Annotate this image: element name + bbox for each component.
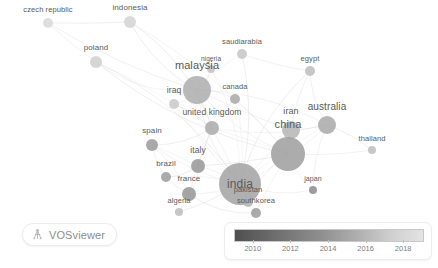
network-node[interactable] bbox=[237, 49, 247, 59]
vosviewer-logo-badge[interactable]: VOSviewer bbox=[22, 223, 117, 246]
legend-tick-label: 2018 bbox=[395, 244, 412, 253]
network-node[interactable] bbox=[43, 18, 53, 28]
vosviewer-logo-icon bbox=[31, 228, 44, 241]
score-legend: 20102012201420162018 bbox=[224, 222, 432, 260]
network-edge bbox=[48, 23, 197, 90]
legend-ticks: 20102012201420162018 bbox=[234, 240, 422, 256]
network-edge bbox=[152, 145, 189, 194]
legend-tickmark bbox=[403, 240, 404, 243]
network-edge bbox=[152, 145, 198, 166]
network-edge bbox=[130, 22, 212, 128]
vosviewer-visualization[interactable]: czech republicindonesiapolandsaudiarabia… bbox=[0, 0, 438, 268]
network-edge bbox=[313, 125, 327, 190]
legend-tick-label: 2014 bbox=[320, 244, 337, 253]
network-node[interactable] bbox=[318, 116, 336, 134]
network-edge bbox=[212, 125, 327, 133]
network-node[interactable] bbox=[191, 159, 205, 173]
legend-tick-label: 2010 bbox=[244, 244, 261, 253]
vosviewer-logo-text: VOSviewer bbox=[49, 229, 105, 241]
legend-tickmark bbox=[366, 240, 367, 243]
network-node[interactable] bbox=[205, 121, 219, 135]
network-node[interactable] bbox=[182, 187, 196, 201]
network-node[interactable] bbox=[243, 197, 253, 207]
network-node[interactable] bbox=[230, 94, 240, 104]
network-node[interactable] bbox=[146, 139, 158, 151]
legend-tickmark bbox=[290, 240, 291, 243]
network-node[interactable] bbox=[282, 121, 300, 139]
network-edge bbox=[197, 90, 327, 125]
legend-tick-label: 2012 bbox=[282, 244, 299, 253]
network-node[interactable] bbox=[219, 163, 261, 205]
nodes-layer[interactable] bbox=[43, 16, 376, 218]
network-edge bbox=[96, 62, 197, 91]
network-node[interactable] bbox=[251, 208, 261, 218]
network-edge bbox=[48, 22, 130, 23]
network-edge bbox=[242, 54, 310, 71]
network-node[interactable] bbox=[271, 137, 305, 171]
network-node[interactable] bbox=[309, 186, 317, 194]
network-node[interactable] bbox=[90, 56, 102, 68]
network-node[interactable] bbox=[124, 16, 136, 28]
legend-tick-label: 2016 bbox=[357, 244, 374, 253]
network-node[interactable] bbox=[161, 172, 171, 182]
network-node[interactable] bbox=[368, 146, 376, 154]
legend-tickmark bbox=[328, 240, 329, 243]
network-node[interactable] bbox=[305, 66, 315, 76]
network-node[interactable] bbox=[175, 208, 183, 216]
network-node[interactable] bbox=[183, 76, 211, 104]
network-edge bbox=[48, 23, 96, 62]
network-node[interactable] bbox=[169, 99, 179, 109]
network-edge bbox=[130, 22, 197, 90]
network-node[interactable] bbox=[207, 65, 215, 73]
legend-tickmark bbox=[253, 240, 254, 243]
